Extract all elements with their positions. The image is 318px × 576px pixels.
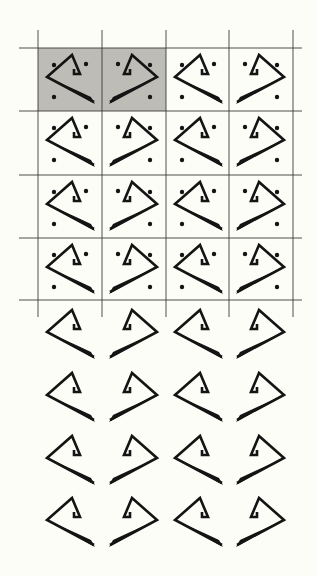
grid-cell bbox=[47, 245, 95, 294]
tiling-diagram bbox=[0, 0, 318, 576]
spiral-hook-right-icon bbox=[236, 310, 284, 359]
grid-cell bbox=[175, 182, 223, 231]
tile bbox=[109, 498, 157, 547]
tile bbox=[175, 373, 223, 422]
lower-block-plain bbox=[47, 310, 284, 547]
spiral-hook-left-icon bbox=[175, 436, 223, 485]
spiral-hook-right-icon bbox=[109, 436, 157, 485]
grid-cell bbox=[236, 182, 284, 231]
spiral-hook-right-icon bbox=[236, 498, 284, 547]
spiral-hook-right-icon bbox=[109, 310, 157, 359]
spiral-hook-left-icon bbox=[175, 373, 223, 422]
tile bbox=[175, 498, 223, 547]
spiral-hook-right-icon bbox=[109, 498, 157, 547]
tile bbox=[109, 373, 157, 422]
spiral-hook-left-icon bbox=[47, 436, 95, 485]
grid-cell bbox=[175, 245, 223, 294]
grid-cell bbox=[175, 55, 223, 104]
spiral-hook-left-icon bbox=[47, 310, 95, 359]
spiral-hook-left-icon bbox=[175, 498, 223, 547]
tile bbox=[236, 373, 284, 422]
grid-cell bbox=[109, 118, 157, 167]
spiral-hook-left-icon bbox=[47, 498, 95, 547]
spiral-hook-right-icon bbox=[109, 373, 157, 422]
tile bbox=[175, 310, 223, 359]
tile bbox=[47, 436, 95, 485]
tiling-figure bbox=[0, 0, 318, 576]
spiral-hook-left-icon bbox=[47, 373, 95, 422]
grid-cell bbox=[236, 55, 284, 104]
grid-cell bbox=[109, 245, 157, 294]
spiral-hook-right-icon bbox=[236, 373, 284, 422]
tile bbox=[47, 498, 95, 547]
tile bbox=[236, 436, 284, 485]
spiral-hook-right-icon bbox=[236, 436, 284, 485]
tile bbox=[236, 498, 284, 547]
spiral-hook-left-icon bbox=[175, 310, 223, 359]
grid-cell bbox=[236, 118, 284, 167]
tile bbox=[109, 310, 157, 359]
grid-cell bbox=[47, 118, 95, 167]
grid-cell bbox=[236, 245, 284, 294]
tile bbox=[236, 310, 284, 359]
tile bbox=[175, 436, 223, 485]
tile bbox=[109, 436, 157, 485]
grid-cell bbox=[109, 182, 157, 231]
grid-cell bbox=[47, 182, 95, 231]
tile bbox=[47, 310, 95, 359]
grid-cell bbox=[175, 118, 223, 167]
tile bbox=[47, 373, 95, 422]
